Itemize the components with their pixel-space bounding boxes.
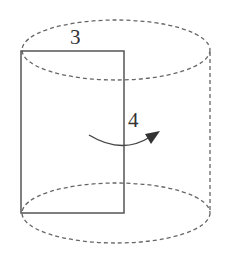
width-label: 3: [70, 25, 81, 49]
rotation-arrow-curve: [89, 135, 150, 146]
top-ellipse: [22, 20, 210, 80]
cylinder-diagram: 3 4: [0, 0, 239, 265]
height-label: 4: [128, 108, 139, 132]
diagram-svg: 3 4: [0, 0, 239, 265]
arrowhead-icon: [145, 131, 160, 144]
rectangle: [21, 51, 124, 213]
